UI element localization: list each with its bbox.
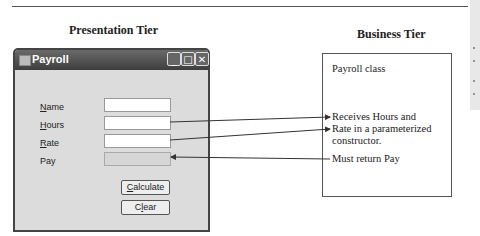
connector-arrows bbox=[0, 0, 480, 236]
